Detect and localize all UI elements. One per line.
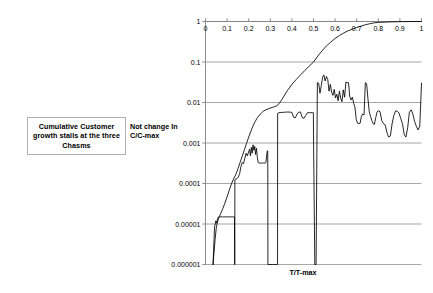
- x-tick-label: 0.6: [330, 25, 340, 32]
- y-tick-label: 0.00001: [175, 221, 200, 228]
- x-tick-marks-group: [206, 18, 422, 21]
- x-tick-label: 0.5: [309, 25, 319, 32]
- y-tick-label: 0.000001: [171, 261, 200, 268]
- x-tick-label: 0.9: [395, 25, 405, 32]
- x-tick-label: 0.7: [352, 25, 362, 32]
- y-tick-label: 0.1: [191, 59, 201, 66]
- y-tick-marks-group: [202, 22, 205, 265]
- x-tick-label: 0.2: [244, 25, 254, 32]
- chart-plot: 00.10.20.30.40.50.60.70.80.91 10.10.010.…: [0, 0, 433, 293]
- x-tick-label: 0: [204, 25, 208, 32]
- x-tick-labels-group: 00.10.20.30.40.50.60.70.80.91: [204, 25, 424, 32]
- figure-canvas: Cumulative Customer growth stalls at the…: [0, 0, 433, 293]
- y-tick-label: 0.0001: [179, 180, 201, 187]
- y-tick-labels-group: 10.10.010.0010.00010.000010.000001: [171, 18, 200, 268]
- x-tick-label: 0.4: [287, 25, 297, 32]
- y-tick-label: 0.01: [187, 99, 201, 106]
- x-tick-label: 0.3: [265, 25, 275, 32]
- y-tick-label: 1: [197, 18, 201, 25]
- x-tick-label: 1: [420, 25, 424, 32]
- y-tick-label: 0.001: [183, 140, 201, 147]
- x-tick-label: 0.1: [222, 25, 232, 32]
- data-series-line: [213, 75, 421, 265]
- x-tick-label: 0.8: [373, 25, 383, 32]
